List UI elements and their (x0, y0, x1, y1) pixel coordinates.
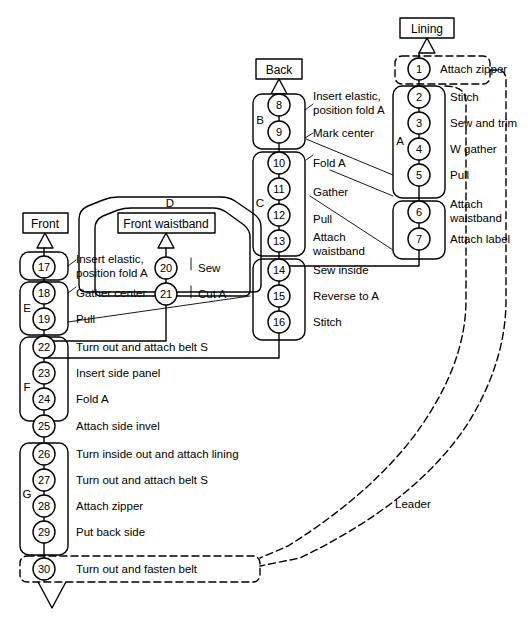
task-label-24: Fold A (76, 393, 109, 405)
task-label-20: Sew (198, 262, 221, 274)
leader-line-9 (305, 133, 313, 138)
node-number-26: 26 (38, 448, 50, 460)
node-number-6: 6 (416, 206, 422, 218)
task-label-30: Turn out and fasten belt (76, 563, 198, 575)
node-number-19: 19 (38, 313, 50, 325)
task-label-5: Pull (450, 169, 469, 181)
group-label-g: G (23, 488, 32, 500)
assembly-diagram-canvas: 1 2 3 4 5 6 7 8 9 10 11 12 13 14 15 16 1… (0, 0, 531, 628)
node-number-12: 12 (273, 209, 285, 221)
task-label-1: Attach zipper (440, 63, 507, 75)
node-number-30: 30 (38, 563, 50, 575)
node-number-17: 17 (38, 261, 50, 273)
task-label-16: Stitch (313, 316, 342, 328)
task-label-15: Reverse to A (313, 290, 379, 302)
source-box-label-front-waistband: Front waistband (123, 217, 208, 231)
task-label-6-line2: waistband (449, 212, 502, 224)
node-number-14: 14 (273, 264, 285, 276)
leader-line-18 (68, 287, 76, 293)
node-number-16: 16 (273, 316, 285, 328)
task-label-12: Pull (313, 213, 332, 225)
arrowhead-output (36, 578, 68, 608)
node-number-9: 9 (276, 126, 282, 138)
node-number-10: 10 (273, 157, 285, 169)
node-number-2: 2 (416, 91, 422, 103)
node-number-15: 15 (273, 290, 285, 302)
arrowhead-front (37, 233, 53, 248)
task-label-4: W gather (450, 143, 497, 155)
group-label-d: D (166, 197, 174, 209)
node-number-29: 29 (38, 526, 50, 538)
node-number-21: 21 (160, 288, 172, 300)
task-label-17-line2: position fold A (76, 267, 148, 279)
node-number-5: 5 (416, 169, 422, 181)
task-label-25: Attach side invel (76, 420, 160, 432)
leader-line-8 (305, 104, 313, 110)
task-label-8-line2: position fold A (313, 104, 385, 116)
node-number-20: 20 (160, 262, 172, 274)
task-label-13-line2: waistband (312, 245, 365, 257)
task-label-23: Insert side panel (76, 367, 160, 379)
task-label-11: Gather (313, 186, 348, 198)
leader-annotation-label: Leader (395, 498, 431, 510)
task-label-2: Stitch (450, 91, 479, 103)
node-number-22: 22 (38, 341, 50, 353)
arrowhead-back (271, 79, 287, 94)
task-label-13-line1: Attach (313, 231, 346, 243)
node-number-23: 23 (38, 367, 50, 379)
leader-line-c-fold (306, 155, 313, 160)
task-label-26: Turn inside out and attach lining (76, 448, 239, 460)
task-label-10: Fold A (313, 157, 346, 169)
task-label-3: Sew and trim (450, 117, 517, 129)
group-label-f: F (23, 381, 30, 393)
source-box-label-lining: Lining (411, 22, 443, 36)
source-box-label-back: Back (266, 63, 294, 77)
node-number-8: 8 (276, 99, 282, 111)
task-label-28: Attach zipper (76, 500, 143, 512)
task-label-8-line1: Insert elastic, (313, 90, 381, 102)
leader-line-17 (68, 260, 76, 266)
task-label-17-line1: Insert elastic, (76, 253, 144, 265)
node-number-27: 27 (38, 474, 50, 486)
task-label-27: Turn out and attach belt S (76, 474, 208, 486)
arrowhead-front-waistband (158, 233, 174, 248)
node-number-1: 1 (416, 63, 422, 75)
group-label-c: C (256, 197, 264, 209)
task-label-22: Turn out and attach belt S (76, 341, 208, 353)
node-number-25: 25 (38, 420, 50, 432)
node-number-4: 4 (416, 143, 422, 155)
node-number-18: 18 (38, 287, 50, 299)
source-box-label-front: Front (31, 217, 60, 231)
group-label-e: E (23, 302, 31, 314)
node-number-3: 3 (416, 117, 422, 129)
group-label-a: A (396, 135, 404, 147)
node-number-7: 7 (416, 233, 422, 245)
group-label-b: B (256, 114, 264, 126)
node-number-13: 13 (273, 235, 285, 247)
task-label-14: Sew inside (313, 264, 369, 276)
task-label-7: Attach label (450, 233, 510, 245)
assembly-flow-diagram: 1 2 3 4 5 6 7 8 9 10 11 12 13 14 15 16 1… (0, 0, 531, 628)
task-label-9: Mark center (313, 127, 374, 139)
node-number-11: 11 (273, 183, 284, 195)
task-label-6-line1: Attach (450, 198, 483, 210)
node-number-28: 28 (38, 500, 50, 512)
task-label-21: Cut A (198, 288, 226, 300)
arrowhead-lining (419, 38, 435, 53)
task-label-29: Put back side (76, 526, 145, 538)
node-number-24: 24 (38, 393, 50, 405)
task-label-18: Gather center (76, 287, 146, 299)
task-label-19: Pull (76, 313, 95, 325)
